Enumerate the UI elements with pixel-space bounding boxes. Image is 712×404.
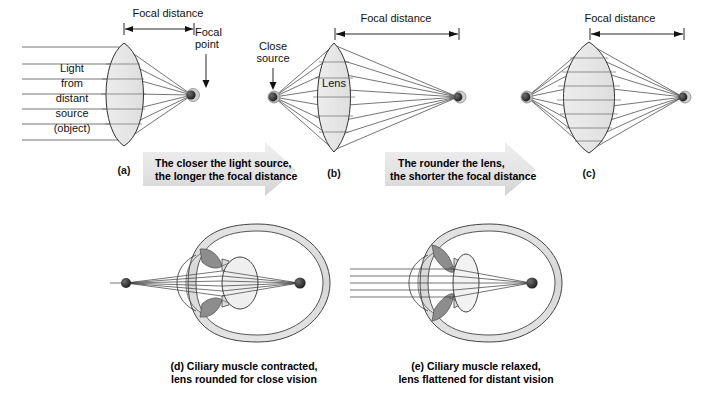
panel-b-focal-distance-label: Focal distance [361,12,432,24]
panel-e-caption-line1: (e) Ciliary muscle relaxed, [411,360,541,372]
figure-canvas: Focal distance [0,0,712,404]
arrow-1-line1: The closer the light source, [155,157,292,169]
arrow-2-line1: The rounder the lens, [398,157,505,169]
panel-d-lens [222,257,258,309]
panel-d-caption-line1: (d) Ciliary muscle contracted, [170,360,317,372]
panel-c-letter: (c) [583,167,596,179]
panel-a-focal-point-label-line2: point [195,38,219,50]
panel-a-focal-point-dot [186,90,195,99]
panel-b-close-source-line2: source [256,52,289,64]
panel-e-image-point [526,277,537,288]
panel-d-image-point [294,277,305,288]
panel-e-caption-line2: lens flattened for distant vision [398,373,553,385]
light-text-2: distant [56,92,88,104]
panel-c-focal-point-dot [679,93,688,102]
panel-b-focal-point-dot [454,93,463,102]
panel-b-source-dot [269,93,278,102]
panel-c-focal-distance-label: Focal distance [585,12,656,24]
panel-b-letter: (b) [327,167,340,179]
arrow-2-line2: the shorter the focal distance [390,170,537,182]
arrow-1-line2: the longer the focal distance [155,170,298,182]
panel-b-lens-label: Lens [322,77,346,89]
light-text-1: from [61,77,83,89]
panel-d-object-point [121,278,131,288]
light-text-0: Light [60,62,84,74]
diagram-svg: Focal distance [0,0,712,404]
panel-a-focal-distance-label: Focal distance [133,7,204,19]
panel-a-letter: (a) [118,164,131,176]
light-text-4: (object) [54,122,91,134]
panel-c-source-dot [522,93,531,102]
panel-b-close-source-line1: Close [259,40,287,52]
panel-a-focal-point-label-line1: Focal [195,26,222,38]
light-text-3: source [55,107,88,119]
panel-d-caption-line2: lens rounded for close vision [171,373,317,385]
